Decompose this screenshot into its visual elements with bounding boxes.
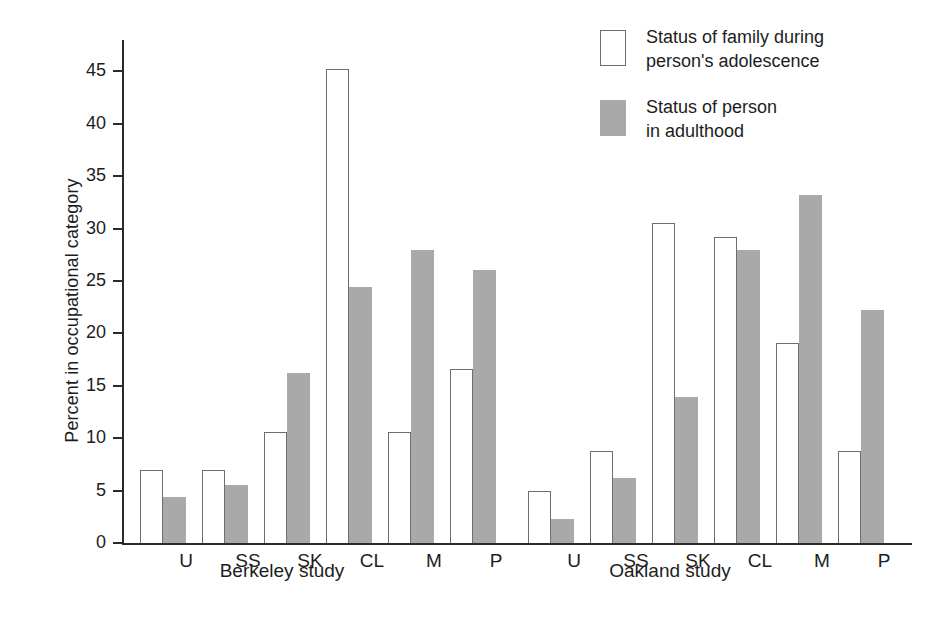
y-tick-label-20: 20 [86, 322, 106, 343]
group-label-berkeley: Berkeley study [152, 560, 412, 582]
bar-berkeley-ss-person [225, 485, 248, 543]
legend-swatch-filled-icon [600, 100, 626, 136]
bar-oakland-ss-family [590, 451, 613, 543]
bar-oakland-sk-family [652, 223, 675, 543]
y-tick-label-15: 15 [86, 375, 106, 396]
x-axis-line [122, 543, 912, 545]
bar-berkeley-ss-family [202, 470, 225, 543]
y-tick-label-0: 0 [96, 532, 106, 553]
y-tick-20: 20 [113, 332, 124, 334]
bar-chart: Percent in occupational category 0510152… [0, 0, 931, 638]
bar-oakland-m-person [799, 195, 822, 543]
bar-berkeley-m-family [388, 432, 411, 543]
bar-oakland-sk-person [675, 397, 698, 543]
bar-berkeley-u-family [140, 470, 163, 543]
bar-oakland-ss-person [613, 478, 636, 543]
y-tick-label-40: 40 [86, 113, 106, 134]
legend-item-family: Status of family during person's adolesc… [600, 28, 920, 76]
bar-berkeley-cl-person [349, 287, 372, 543]
x-label-berkeley-m: M [406, 550, 462, 572]
y-tick-label-30: 30 [86, 218, 106, 239]
y-tick-40: 40 [113, 123, 124, 125]
bar-berkeley-m-person [411, 250, 434, 543]
group-label-oakland: Oakland study [540, 560, 800, 582]
y-tick-label-25: 25 [86, 270, 106, 291]
bar-berkeley-p-family [450, 369, 473, 543]
legend-label-person: Status of person in adulthood [646, 96, 777, 144]
bar-berkeley-u-person [163, 497, 186, 543]
y-tick-30: 30 [113, 228, 124, 230]
bar-berkeley-cl-family [326, 69, 349, 543]
bar-oakland-u-person [551, 519, 574, 543]
bar-oakland-u-family [528, 491, 551, 543]
bar-oakland-p-family [838, 451, 861, 543]
y-tick-0: 0 [113, 542, 124, 544]
y-tick-10: 10 [113, 437, 124, 439]
y-tick-label-5: 5 [96, 480, 106, 501]
x-label-oakland-m: M [794, 550, 850, 572]
x-label-oakland-p: P [856, 550, 912, 572]
y-tick-label-10: 10 [86, 427, 106, 448]
bar-oakland-cl-family [714, 237, 737, 543]
legend-item-person: Status of person in adulthood [600, 98, 920, 146]
y-tick-15: 15 [113, 385, 124, 387]
y-tick-25: 25 [113, 280, 124, 282]
y-tick-35: 35 [113, 175, 124, 177]
y-tick-5: 5 [113, 490, 124, 492]
y-tick-45: 45 [113, 70, 124, 72]
y-tick-label-45: 45 [86, 60, 106, 81]
legend: Status of family during person's adolesc… [600, 28, 920, 168]
bar-berkeley-p-person [473, 270, 496, 544]
bar-oakland-cl-person [737, 250, 760, 543]
y-tick-label-35: 35 [86, 165, 106, 186]
bar-berkeley-sk-person [287, 373, 310, 543]
x-label-berkeley-p: P [468, 550, 524, 572]
bar-berkeley-sk-family [264, 432, 287, 543]
y-axis-title: Percent in occupational category [62, 121, 83, 501]
legend-swatch-open-icon [600, 30, 626, 66]
bar-oakland-m-family [776, 343, 799, 543]
bar-oakland-p-person [861, 310, 884, 543]
y-axis-line [122, 40, 124, 545]
legend-label-family: Status of family during person's adolesc… [646, 26, 824, 74]
